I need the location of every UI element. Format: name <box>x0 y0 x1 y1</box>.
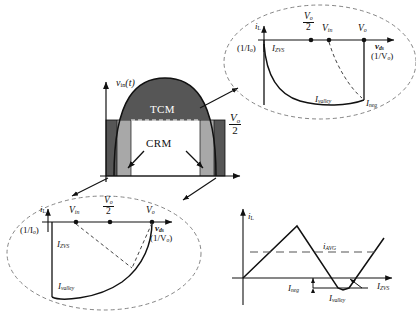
crm-tick-label-vo-half: Vo 2 <box>103 196 114 216</box>
tcm-dashed-radius <box>329 42 362 98</box>
waveform-y-axis-label: iL <box>248 212 254 222</box>
crm-x-scale-label: (1/Vo) <box>150 234 172 244</box>
ineg-measure <box>313 278 345 288</box>
figure-graphics <box>0 0 416 316</box>
waveform-ivalley-label: Ivalley <box>329 294 345 304</box>
tcm-y-axis-label: iL <box>255 22 261 32</box>
crm-dashed-radius-vin <box>76 224 132 268</box>
vo-half-label: Vo 2 <box>229 112 241 137</box>
waveform-axes <box>232 209 392 305</box>
tcm-x-scale-label: (1/Vo) <box>371 52 393 62</box>
vo-half-denominator: 2 <box>229 125 241 136</box>
crm-tick-vo-half <box>108 220 113 225</box>
crm-y-scale-label: (1/Io) <box>20 226 39 236</box>
waveform-iavg-label: iAVG <box>323 242 336 252</box>
connector-right-to-inset <box>183 178 216 200</box>
tcm-ivalley-label: Ivalley <box>315 95 331 105</box>
tcm-region-label: TCM <box>150 104 175 115</box>
tcm-izvs-label: IZVS <box>272 44 284 54</box>
crm-tick-label-vin: Vin <box>69 206 79 216</box>
crm-ivalley-label: Ivalley <box>58 282 74 292</box>
tcm-tick-label-vo: Vo <box>358 24 367 34</box>
crm-y-axis-label: iL <box>40 205 46 215</box>
tcm-tick-vin <box>327 38 332 43</box>
tcm-tick-label-vo-half: Vo 2 <box>303 12 314 32</box>
waveform-izvs-label: IZVS <box>377 282 389 292</box>
waveform-ineg-label: Ineg <box>288 284 299 294</box>
connector-tcm-to-inset <box>200 88 238 108</box>
connector-left-to-inset <box>72 178 108 196</box>
figure-root: vin(t) TCM CRM Vo 2 iL (1/Io) Vo 2 Vin V… <box>0 0 416 316</box>
tcm-y-scale-label: (1/Io) <box>237 44 256 54</box>
tcm-ineg-label: Ineg <box>366 99 377 109</box>
crm-tick-vin <box>74 220 79 225</box>
tcm-tick-label-vin: Vin <box>322 24 332 34</box>
main-y-axis-label: vin(t) <box>116 78 135 89</box>
crm-region-label: CRM <box>146 138 172 149</box>
tcm-tick-vo-half <box>309 38 314 43</box>
crm-izvs-label: IZVS <box>57 240 69 250</box>
crm-tick-label-vo: Vo <box>146 206 155 216</box>
